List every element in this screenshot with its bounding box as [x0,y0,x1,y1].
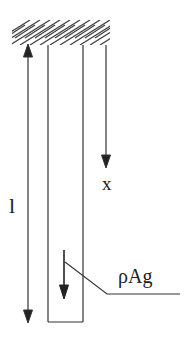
hanging-bar [48,45,83,322]
diagram-canvas: l x ρAg [0,0,188,344]
axis-label: x [102,173,112,194]
arrowhead-up-icon [24,44,33,57]
arrowhead-down-icon [24,310,33,323]
arrowhead-down-icon [60,285,69,299]
length-dimension-arrow [24,44,33,323]
weight-force-arrow [60,250,69,299]
x-axis-arrow [102,45,111,168]
length-label: l [9,193,15,218]
fixed-support [0,20,140,45]
weight-label: ρAg [118,265,152,288]
arrowhead-down-icon [102,155,111,168]
